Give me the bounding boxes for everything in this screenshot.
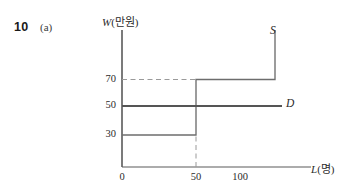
y-tick-label-70: 70	[96, 73, 116, 84]
x-axis-unit: (명)	[317, 163, 334, 175]
y-axis-title: W(만원)	[102, 13, 139, 29]
x-tick-label-100: 100	[228, 171, 252, 182]
figure-container: 10 (a) W(만원) L(명) 70 50 30 0 50 100	[0, 0, 359, 191]
y-tick-label-50: 50	[96, 99, 116, 110]
labor-market-chart: W(만원) L(명) 70 50 30 0 50 100 S D	[0, 0, 359, 191]
x-axis-title: L(명)	[311, 160, 334, 176]
y-tick-label-30: 30	[96, 128, 116, 139]
x-tick-label-50: 50	[184, 171, 208, 182]
demand-curve-label: D	[286, 97, 294, 109]
y-axis-unit: (만원)	[111, 16, 138, 28]
chart-svg	[0, 0, 359, 191]
x-tick-label-0: 0	[110, 171, 134, 182]
y-axis-variable: W	[102, 16, 111, 28]
supply-curve	[122, 30, 275, 135]
supply-curve-label: S	[270, 24, 276, 36]
